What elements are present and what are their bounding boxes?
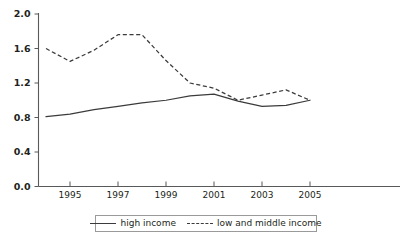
x-tick-label: 2001 [203, 190, 226, 200]
line-chart: 0.00.40.81.21.62.0 199519971999200120032… [0, 0, 411, 239]
x-tick-label: 1995 [59, 190, 82, 200]
y-tick-label: 0.4 [14, 146, 31, 157]
series-line-low-and-middle-income [46, 35, 310, 101]
legend-swatch-dashed-icon [187, 223, 213, 224]
x-tick-label: 2005 [299, 190, 322, 200]
y-tick-label: 2.0 [14, 8, 31, 19]
chart-legend: high income low and middle income [95, 215, 317, 232]
chart-plot-area: 0.00.40.81.21.62.0 199519971999200120032… [0, 0, 411, 239]
x-axis-tick-labels: 199519971999200120032005 [59, 190, 322, 200]
legend-label-low-and-middle-income: low and middle income [217, 219, 322, 228]
legend-label-high-income: high income [120, 219, 175, 228]
y-tick-label: 0.8 [14, 112, 31, 123]
y-axis-tick-labels: 0.00.40.81.21.62.0 [14, 8, 31, 192]
series-line-high-income [46, 94, 310, 116]
y-axis-ticks [35, 14, 39, 187]
x-tick-label: 2003 [251, 190, 274, 200]
y-tick-label: 0.0 [14, 181, 31, 192]
y-tick-label: 1.2 [14, 77, 31, 88]
legend-swatch-solid-icon [90, 223, 116, 224]
x-tick-label: 1997 [107, 190, 130, 200]
x-tick-label: 1999 [155, 190, 178, 200]
x-axis-ticks [70, 182, 310, 187]
legend-item-low-and-middle-income: low and middle income [187, 219, 322, 228]
y-tick-label: 1.6 [14, 43, 31, 54]
legend-item-high-income: high income [90, 219, 175, 228]
